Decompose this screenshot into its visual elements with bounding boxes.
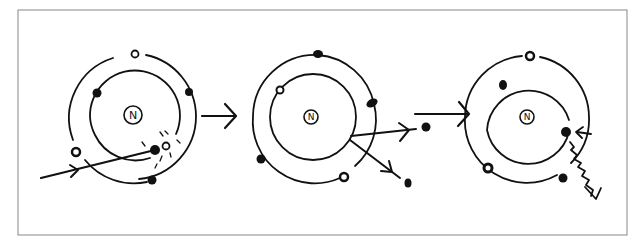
electron — [257, 155, 266, 164]
electron — [72, 148, 80, 156]
electron — [163, 143, 170, 150]
electron — [93, 89, 102, 98]
ejected-electron — [405, 179, 412, 188]
electron — [185, 88, 193, 96]
atom-2: N — [253, 50, 431, 188]
electron — [313, 50, 323, 58]
nucleus-label: N — [129, 109, 137, 122]
inner-shell — [487, 91, 569, 164]
collision-burst-icon — [142, 131, 180, 168]
atom-3: N — [465, 52, 601, 199]
transition-arrow-1 — [202, 104, 236, 128]
diagram-frame — [18, 10, 627, 235]
photon-emission-icon — [570, 142, 601, 199]
electron — [559, 174, 568, 183]
electron — [277, 87, 284, 94]
electron — [561, 127, 571, 137]
ejected-electron-arrow-2 — [350, 140, 400, 178]
ejected-electron-arrow-1 — [351, 123, 416, 141]
electron — [132, 51, 139, 58]
electron — [526, 52, 534, 60]
ejected-electron — [422, 123, 431, 132]
nucleus-label: N — [308, 112, 315, 122]
electron — [499, 80, 507, 90]
atomic-process-diagram: N N — [0, 0, 643, 245]
electron — [148, 176, 157, 185]
nucleus-label: N — [524, 112, 531, 122]
electron — [340, 173, 348, 181]
incoming-particle-arrow — [41, 150, 155, 178]
atom-1: N — [41, 51, 196, 185]
transition-arrow-2 — [415, 102, 469, 126]
electron — [484, 164, 492, 172]
